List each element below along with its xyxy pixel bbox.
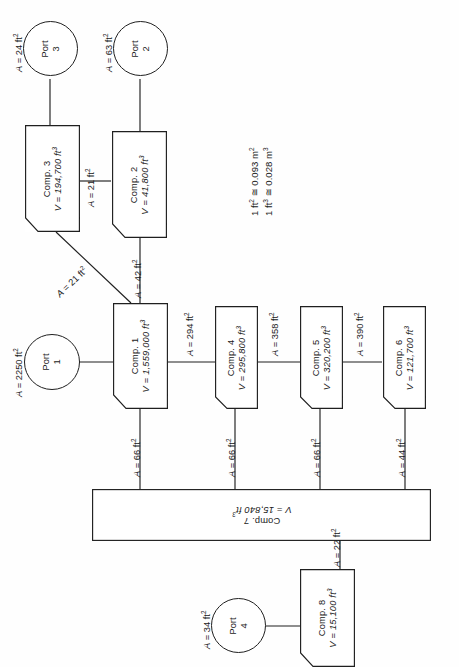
comp-1-name: Comp. 1 bbox=[129, 320, 140, 393]
comp-6-name: Comp. 6 bbox=[393, 325, 404, 390]
port-3-area-label: A = 24 ft2 bbox=[13, 34, 25, 72]
comp-4[interactable]: Comp. 4 V = 295,800 ft3 bbox=[215, 306, 258, 409]
port-2[interactable]: Port 2 bbox=[113, 21, 168, 76]
unit-conversion-note: 1 ft2 ≅ 0.093 m2 1 ft3 ≅ 0.028 m3 bbox=[248, 96, 275, 216]
conversion-line-2: 1 ft3 ≅ 0.028 m3 bbox=[262, 96, 276, 216]
comp-2-label: Comp. 2 V = 41,800 ft3 bbox=[128, 155, 151, 214]
comp-5[interactable]: Comp. 5 V = 320,200 ft3 bbox=[300, 306, 343, 409]
port-2-label: Port 2 bbox=[130, 40, 152, 57]
conn-3-1-label: A = 21 ft2 bbox=[54, 265, 90, 300]
comp-3-label: Comp. 3 V = 194,700 ft3 bbox=[41, 146, 64, 211]
conn-1-4-label: A = 294 ft2 bbox=[184, 312, 196, 356]
comp-2-volume: V = 41,800 ft3 bbox=[140, 155, 151, 214]
conn-5-6-label: A = 390 ft2 bbox=[354, 312, 366, 356]
comp-5-name: Comp. 5 bbox=[310, 325, 321, 390]
port-1-area-label: A = 2250 ft2 bbox=[13, 348, 25, 397]
comp-3[interactable]: Comp. 3 V = 194,700 ft3 bbox=[25, 125, 80, 232]
comp-4-name: Comp. 4 bbox=[225, 325, 236, 390]
comp-8-name: Comp. 8 bbox=[316, 588, 327, 647]
port-2-name: Port bbox=[130, 40, 141, 57]
comp-1-label: Comp. 1 V = 1,559,000 ft3 bbox=[129, 320, 152, 393]
conversion-line-1: 1 ft2 ≅ 0.093 m2 bbox=[248, 96, 262, 216]
comp-3-volume: V = 194,700 ft3 bbox=[53, 146, 64, 211]
comp-8-label: Comp. 8 V = 15,100 ft3 bbox=[316, 588, 339, 647]
port-1[interactable]: Port 1 bbox=[24, 334, 80, 390]
comp-4-volume: V = 295,800 ft3 bbox=[237, 325, 248, 390]
conn-2-1-label: A = 42 ft2 bbox=[132, 260, 144, 298]
comp-2[interactable]: Comp. 2 V = 41,800 ft3 bbox=[112, 131, 167, 238]
port-2-area-label: A = 63 ft2 bbox=[103, 34, 115, 72]
comp-7[interactable]: Comp. 7 V = 15,840 ft3 bbox=[92, 489, 431, 541]
port-4-label: Port 4 bbox=[228, 617, 250, 634]
port-4-area-label: A = 34 ft2 bbox=[201, 611, 213, 649]
conn-5-7-label: A = 66 ft2 bbox=[311, 439, 323, 477]
port-4-name: Port bbox=[228, 617, 239, 634]
conn-4-7-label: A = 66 ft2 bbox=[226, 439, 238, 477]
port-2-number: 2 bbox=[141, 40, 152, 57]
conn-6-7-label: A = 44 ft2 bbox=[396, 439, 408, 477]
comp-6-volume: V = 121,700 ft3 bbox=[405, 325, 416, 390]
conn-3-2-label: A = 21 ft2 bbox=[85, 169, 97, 207]
comp-5-label: Comp. 5 V = 320,200 ft3 bbox=[310, 325, 333, 390]
comp-7-name: Comp. 7 bbox=[232, 515, 291, 526]
conn-1-7-label: A = 66 ft2 bbox=[131, 439, 143, 477]
diagram-canvas: 1 ft2 ≅ 0.093 m2 1 ft3 ≅ 0.028 m3 Port 3… bbox=[0, 0, 459, 667]
comp-1-volume: V = 1,559,000 ft3 bbox=[141, 320, 152, 393]
comp-3-name: Comp. 3 bbox=[41, 146, 52, 211]
port-1-number: 1 bbox=[52, 353, 63, 370]
comp-4-label: Comp. 4 V = 295,800 ft3 bbox=[225, 325, 248, 390]
comp-2-name: Comp. 2 bbox=[128, 155, 139, 214]
comp-8[interactable]: Comp. 8 V = 15,100 ft3 bbox=[300, 569, 355, 667]
conn-7-8-label: A = 22 ft2 bbox=[331, 529, 343, 567]
comp-7-label: Comp. 7 V = 15,840 ft3 bbox=[232, 504, 291, 527]
port-4-number: 4 bbox=[239, 617, 250, 634]
port-3-name: Port bbox=[40, 40, 51, 57]
port-3[interactable]: Port 3 bbox=[23, 21, 78, 76]
comp-7-volume: V = 15,840 ft3 bbox=[232, 504, 291, 515]
port-3-number: 3 bbox=[51, 40, 62, 57]
comp-6-label: Comp. 6 V = 121,700 ft3 bbox=[393, 325, 416, 390]
comp-6[interactable]: Comp. 6 V = 121,700 ft3 bbox=[383, 306, 426, 409]
port-4[interactable]: Port 4 bbox=[211, 598, 266, 653]
comp-1[interactable]: Comp. 1 V = 1,559,000 ft3 bbox=[113, 303, 168, 409]
comp-8-volume: V = 15,100 ft3 bbox=[328, 588, 339, 647]
port-1-label: Port 1 bbox=[41, 353, 63, 370]
comp-5-volume: V = 320,200 ft3 bbox=[322, 325, 333, 390]
conn-4-5-label: A = 358 ft2 bbox=[269, 312, 281, 356]
port-3-label: Port 3 bbox=[40, 40, 62, 57]
port-1-name: Port bbox=[41, 353, 52, 370]
